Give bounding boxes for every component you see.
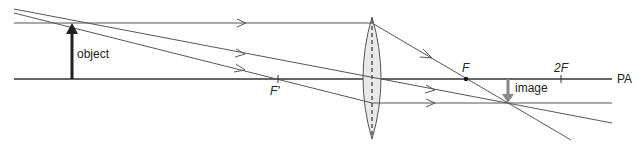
two-f-label: 2F: [554, 62, 568, 74]
ray-central: [14, 9, 612, 123]
f-label: F: [462, 62, 469, 74]
image-arrow: [502, 79, 514, 103]
image-label: image: [515, 82, 548, 94]
principal-axis-label: PA: [617, 73, 632, 85]
f-point-dot: [464, 77, 468, 81]
object-label: object: [77, 48, 109, 60]
ray-diagram: [0, 0, 641, 146]
f-prime-label: F': [270, 85, 280, 97]
